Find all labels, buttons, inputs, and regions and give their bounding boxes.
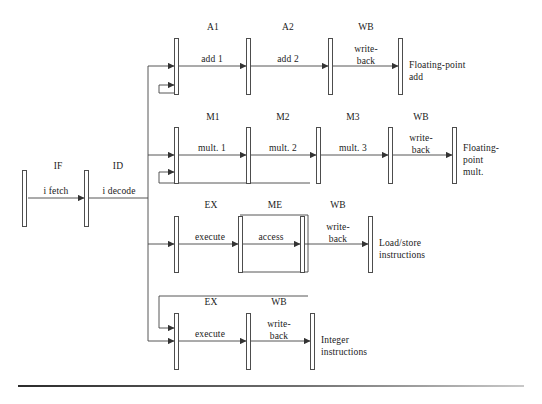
action-label-wb-mult-line1: write- — [409, 133, 433, 144]
output-label-fp-mult-line1: Floating- — [463, 143, 499, 155]
pipeline-register-ex-wb-int — [246, 313, 251, 370]
pipeline-register-wb-ls-out — [368, 216, 373, 273]
action-label-mult-2: mult. 2 — [269, 143, 297, 154]
stage-label-ex-ls: EX — [205, 200, 218, 211]
footer-rule — [18, 385, 524, 387]
pipeline-register-a1-in — [174, 38, 179, 95]
stage-label-m1: M1 — [206, 112, 220, 123]
stage-label-a1: A1 — [207, 22, 219, 33]
action-label-execute-int: execute — [195, 329, 225, 340]
stage-label-wb-ls: WB — [330, 200, 346, 211]
stage-label-wb-mult: WB — [413, 112, 429, 123]
action-label-wb-ls-line2: back — [329, 234, 348, 245]
output-label-load-store-line2: instructions — [379, 250, 425, 262]
stage-label-m2: M2 — [276, 112, 290, 123]
pipeline-register-m2-m3 — [316, 127, 321, 184]
action-label-wb-mult-line2: back — [412, 145, 431, 156]
feedback-loop-mult — [159, 172, 310, 183]
stage-label-me-ls: ME — [268, 200, 283, 211]
pipeline-register-start — [22, 170, 27, 227]
action-label-wb-int-line1: write- — [267, 319, 291, 330]
output-label-fp-mult-line2: point — [463, 155, 483, 167]
stage-label-a2: A2 — [282, 22, 294, 33]
bypass-loop-me — [240, 215, 308, 272]
action-label-wb-ls-line1: write- — [326, 222, 350, 233]
action-label-i-decode: i decode — [102, 186, 135, 197]
output-label-fp-add-line2: add — [409, 72, 423, 84]
stage-label-wb-add: WB — [358, 22, 374, 33]
action-label-add-2: add 2 — [277, 54, 299, 65]
output-label-integer-line1: Integer — [321, 335, 349, 347]
stage-label-if: IF — [54, 161, 63, 172]
stage-label-id: ID — [113, 161, 123, 172]
output-label-fp-mult-line3: mult. — [463, 167, 484, 179]
action-label-wb-add-line2: back — [357, 56, 376, 67]
action-label-execute-ls: execute — [195, 232, 225, 243]
pipeline-register-ex-ls-in — [174, 216, 179, 273]
pipeline-register-if — [84, 170, 89, 227]
stage-label-ex-int: EX — [205, 297, 218, 308]
pipeline-register-wb-mult-out — [452, 127, 457, 184]
action-label-mult-3: mult. 3 — [339, 143, 367, 154]
pipeline-register-m1-m2 — [246, 127, 251, 184]
pipeline-register-me-wb-ls — [300, 216, 305, 273]
stage-label-m3: M3 — [346, 112, 360, 123]
pipeline-register-wb-add-out — [398, 38, 403, 95]
pipeline-register-a1-a2 — [246, 38, 251, 95]
pipeline-register-m1-in — [174, 127, 179, 184]
action-label-add-1: add 1 — [201, 54, 223, 65]
pipeline-diagram-canvas: IF i fetch ID i decode A1 add 1 A2 add 2… — [0, 0, 542, 404]
action-label-wb-int-line2: back — [270, 331, 289, 342]
stage-label-wb-int: WB — [271, 297, 287, 308]
action-label-mult-1: mult. 1 — [198, 143, 226, 154]
pipeline-register-a2-wb — [328, 38, 333, 95]
action-label-access: access — [258, 232, 283, 243]
pipeline-register-wb-int-out — [310, 313, 315, 370]
pipeline-register-ex-int-in — [174, 313, 179, 370]
output-label-fp-add-line1: Floating-point — [409, 60, 465, 72]
action-label-wb-add-line1: write- — [354, 44, 378, 55]
pipeline-register-m3-wb — [388, 127, 393, 184]
pipeline-register-ex-me-ls — [238, 216, 243, 273]
output-label-integer-line2: instructions — [321, 347, 367, 359]
action-label-i-fetch: i fetch — [43, 186, 68, 197]
output-label-load-store-line1: Load/store — [379, 238, 421, 250]
